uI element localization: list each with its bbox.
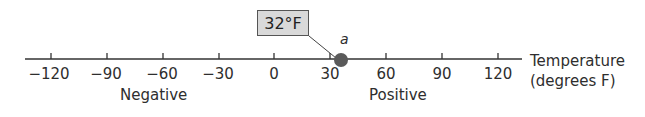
tick-label: −90 [90, 66, 122, 83]
tick-label: −60 [146, 66, 178, 83]
tick-label: 30 [320, 66, 339, 83]
negative-region-label: Negative [120, 87, 187, 104]
axis-label-line1: Temperature [530, 53, 625, 70]
tick-label: −30 [202, 66, 234, 83]
callout-text: 32°F [264, 14, 302, 33]
tick-marks [51, 53, 498, 59]
axis-label-line2: (degrees F) [530, 73, 615, 90]
positive-region-label: Positive [369, 87, 427, 104]
point-a-label: a [340, 31, 349, 48]
callout-leader [309, 36, 336, 58]
tick-label: 60 [376, 66, 395, 83]
tick-label: −120 [28, 66, 69, 83]
tick-label: 120 [484, 66, 513, 83]
callout-box: 32°F [257, 10, 309, 36]
tick-label: 90 [432, 66, 451, 83]
tick-label: 0 [269, 66, 279, 83]
